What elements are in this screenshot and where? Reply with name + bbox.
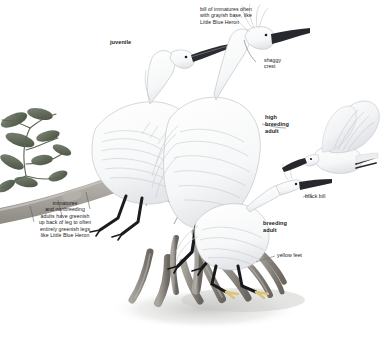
annotation-yellow-feet: yellow feet [277,252,325,258]
annotation-juvenile: juvenile [110,39,160,46]
bird-illustration-artwork [0,0,384,341]
mangrove-foliage [0,106,83,203]
annotation-high-breeding-adult: high breeding adult [265,114,313,135]
annotation-bill-of-immatures: bill of immatures often with grayish bas… [200,6,292,25]
annotation-shaggy-crest: shaggy crest [264,57,304,70]
flying-egret [282,101,379,173]
annotation-black-bill: black bill [305,193,349,199]
annotation-breeding-adult: breeding adult [263,220,311,234]
annotation-immatures-legs: immatures and nonbreeding adults have gr… [6,200,124,238]
illustration-plate: bill of immatures often with grayish bas… [0,0,384,341]
